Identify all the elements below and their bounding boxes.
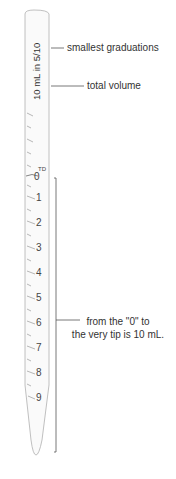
scale-number-4: 4	[36, 268, 42, 278]
scale-number-6: 6	[36, 318, 42, 328]
scale-number-3: 3	[36, 243, 42, 253]
scale-number-7: 7	[36, 343, 42, 353]
scale-number-0: 0	[34, 172, 40, 182]
smallest-graduations-label: smallest graduations	[67, 42, 159, 54]
total-volume-label: total volume	[87, 80, 141, 92]
scale-number-8: 8	[36, 368, 42, 378]
range-label-line1: from the "0" to	[68, 316, 168, 328]
scale-number-1: 1	[36, 193, 42, 203]
pipette-label: 10 mL in 5/10	[31, 43, 42, 100]
scale-number-9: 9	[36, 393, 42, 403]
scale-number-2: 2	[36, 218, 42, 228]
range-label-line2: the very tip is 10 mL.	[66, 329, 170, 341]
range-bracket	[54, 178, 56, 452]
pipette-drawing	[0, 0, 176, 479]
scale-number-5: 5	[36, 293, 42, 303]
